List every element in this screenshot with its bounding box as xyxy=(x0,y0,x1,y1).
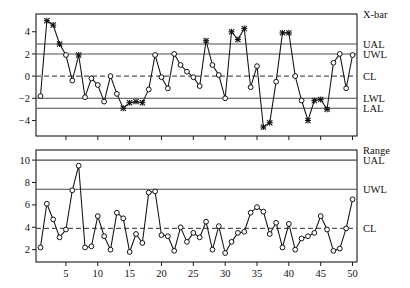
range-chart-xtick-label: 30 xyxy=(220,268,231,279)
xbar-chart-data-point xyxy=(293,74,298,79)
xbar-chart-data-point-flagged xyxy=(44,18,50,24)
xbar-chart-data-point-flagged xyxy=(267,120,273,126)
xbar-chart-ytick-label: 4 xyxy=(25,26,31,37)
range-chart-data-point xyxy=(172,248,177,253)
range-chart-data-point xyxy=(95,214,100,219)
xbar-chart-data-point-flagged xyxy=(133,99,139,105)
xbar-chart-ytick-label: 0 xyxy=(25,71,30,82)
xbar-chart-data-point xyxy=(114,91,119,96)
range-chart-data-point xyxy=(318,214,323,219)
range-chart-limit-label-ual: UAL xyxy=(363,155,385,166)
xbar-chart-data-point-flagged xyxy=(235,37,241,43)
chart-canvas: −4−2024X-barUALUWLCLLWLLAL24681051015202… xyxy=(0,0,410,288)
range-chart-xtick-label: 20 xyxy=(156,268,167,279)
xbar-chart-data-point-flagged xyxy=(50,22,56,28)
range-chart-data-point xyxy=(197,235,202,240)
xbar-chart-limit-label-cl: CL xyxy=(363,71,376,82)
range-chart-data-point xyxy=(121,216,126,221)
range-chart-data-point xyxy=(185,239,190,244)
xbar-chart-ytick-label: 2 xyxy=(25,49,30,60)
range-chart-series-line xyxy=(40,166,352,253)
range-chart-data-point xyxy=(159,233,164,238)
range-chart: 2468105101520253035404550RangeUALUWLCL xyxy=(20,145,391,279)
range-chart-ytick-label: 4 xyxy=(25,222,31,233)
range-chart-xtick-label: 40 xyxy=(284,268,295,279)
xbar-chart-data-point xyxy=(108,74,113,79)
range-chart-data-point xyxy=(280,245,285,250)
range-chart-data-point xyxy=(331,248,336,253)
xbar-chart-data-point xyxy=(70,78,75,83)
range-chart-xtick-label: 45 xyxy=(315,268,326,279)
xbar-chart-data-point-flagged xyxy=(229,29,235,35)
xbar-chart-data-point xyxy=(172,52,177,57)
xbar-chart-data-point xyxy=(95,83,100,88)
range-chart-data-point xyxy=(165,234,170,239)
range-chart-data-point xyxy=(242,229,247,234)
range-chart-data-point xyxy=(210,247,215,252)
range-chart-data-point xyxy=(44,201,49,206)
xbar-chart-data-point xyxy=(165,86,170,91)
xbar-chart-data-point xyxy=(191,75,196,80)
range-chart-data-point xyxy=(223,251,228,256)
range-chart-data-point xyxy=(178,225,183,230)
range-chart-data-point xyxy=(153,189,158,194)
xbar-chart-data-point xyxy=(274,79,279,84)
xbar-chart-data-point-flagged xyxy=(311,98,317,104)
xbar-chart-data-point-flagged xyxy=(286,30,292,36)
xbar-chart-data-point xyxy=(159,75,164,80)
xbar-chart-title-label: X-bar xyxy=(363,9,388,20)
range-chart-data-point xyxy=(337,246,342,251)
range-chart-xtick-label: 15 xyxy=(124,268,135,279)
range-chart-data-point xyxy=(134,232,139,237)
range-chart-data-point xyxy=(229,239,234,244)
xbar-chart-data-point-flagged xyxy=(127,100,133,106)
range-chart-data-point xyxy=(344,226,349,231)
xbar-chart-series-line xyxy=(40,21,352,127)
xbar-chart-data-point-flagged xyxy=(305,117,311,123)
range-chart-data-point xyxy=(64,227,69,232)
range-chart-data-point xyxy=(51,217,56,222)
range-chart-data-point xyxy=(293,247,298,252)
xbar-chart-limit-label-lal: LAL xyxy=(363,103,383,114)
xbar-chart-data-point xyxy=(216,73,221,78)
range-chart-data-point xyxy=(57,235,62,240)
range-chart-data-point xyxy=(267,232,272,237)
range-chart-data-point xyxy=(306,234,311,239)
xbar-chart-data-point xyxy=(83,95,88,100)
xbar-chart-data-point xyxy=(255,64,260,69)
range-chart-data-point xyxy=(108,247,113,252)
range-chart-data-point xyxy=(140,241,145,246)
range-chart-limit-label-cl: CL xyxy=(363,223,376,234)
range-chart-data-point xyxy=(204,219,209,224)
xbar-chart-data-point xyxy=(38,94,43,99)
xbar-chart-data-point-flagged xyxy=(57,41,63,47)
range-chart-data-point xyxy=(70,188,75,193)
xbar-chart-data-point xyxy=(223,96,228,101)
range-chart-data-point xyxy=(146,190,151,195)
range-chart-data-point xyxy=(299,236,304,241)
range-chart-ytick-label: 10 xyxy=(20,155,31,166)
xbar-chart-data-point xyxy=(299,98,304,103)
xbar-chart: −4−2024X-barUALUWLCLLWLLAL xyxy=(19,9,388,140)
range-chart-data-point xyxy=(38,245,43,250)
xbar-chart-data-point-flagged xyxy=(203,38,209,44)
xbar-chart-data-point-flagged xyxy=(76,52,82,58)
xbar-chart-data-point xyxy=(344,86,349,91)
range-chart-data-point xyxy=(102,234,107,239)
xbar-chart-data-point-flagged xyxy=(260,124,266,130)
range-chart-data-point xyxy=(255,205,260,210)
range-chart-limit-label-uwl: UWL xyxy=(363,184,387,195)
range-chart-xtick-label: 50 xyxy=(347,268,358,279)
range-chart-data-point xyxy=(89,244,94,249)
range-chart-data-point xyxy=(114,210,119,215)
xbar-chart-data-point-flagged xyxy=(241,25,247,31)
range-chart-data-point xyxy=(325,227,330,232)
range-chart-data-point xyxy=(312,230,317,235)
xbar-chart-data-point xyxy=(89,76,94,81)
xbar-chart-data-point xyxy=(350,53,355,58)
range-chart-ytick-label: 6 xyxy=(25,199,30,210)
range-chart-data-point xyxy=(216,224,221,229)
xbar-chart-data-point-flagged xyxy=(318,96,324,102)
xbar-chart-data-point-flagged xyxy=(120,105,126,111)
range-chart-xtick-label: 10 xyxy=(93,268,104,279)
